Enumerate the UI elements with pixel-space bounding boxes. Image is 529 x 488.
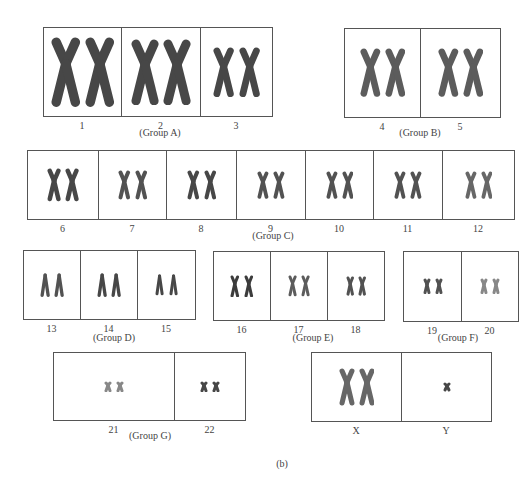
chromosome-number-label: 13 (23, 323, 80, 334)
chromosome-icon (97, 273, 107, 297)
chromosome-icon (155, 274, 164, 296)
group-boxes (53, 352, 246, 421)
chromosome-icon (204, 170, 217, 200)
chromosome-icon (410, 171, 422, 199)
chromosome-number-label: 12 (442, 223, 514, 234)
chromosome-pair-19 (404, 252, 462, 321)
chromosome-icon (169, 274, 178, 296)
chromosome-pair-8 (167, 151, 237, 219)
chromosome-pair-x (312, 353, 402, 421)
chromosome-icon (288, 275, 297, 297)
chromosome-pair-17 (271, 252, 328, 320)
chromosome-number-label: 3 (200, 120, 272, 131)
chromosome-number-label: 10 (305, 223, 373, 234)
chromosome-icon (230, 275, 240, 298)
chromosome-number-label: X (311, 425, 401, 436)
chromosome-icon (257, 171, 269, 199)
chromosome-icon (394, 171, 406, 199)
chromosome-pair-21 (54, 353, 175, 420)
chromosome-icon (339, 368, 355, 406)
chromosome-pair-16 (214, 252, 271, 320)
group-name-label: (Group B) (399, 127, 440, 138)
chromosome-number-label: 6 (27, 223, 98, 234)
chromosome-pair-18 (328, 252, 385, 320)
chromosome-group-a: 123 (43, 27, 273, 131)
chromosome-pair-3 (201, 28, 273, 116)
group-name-label: (Group A) (139, 127, 180, 138)
group-boxes (344, 28, 501, 118)
chromosome-group-f: 1920 (403, 251, 519, 336)
chromosome-icon (187, 170, 200, 200)
chromosome-number-label: 15 (137, 323, 195, 334)
chromosome-icon (481, 171, 493, 199)
group-name-label: (Group C) (252, 230, 293, 241)
chromosome-group-c: 6789101112 (27, 150, 515, 234)
chromosome-icon (463, 48, 484, 97)
group-boxes (311, 352, 492, 422)
chromosome-icon (358, 276, 366, 296)
chromosome-icon (435, 278, 443, 295)
chromosome-number-label: 1 (43, 120, 121, 131)
group-boxes (27, 150, 515, 220)
chromosome-group-e: 161718 (213, 251, 385, 335)
group-name-label: (Group D) (93, 332, 135, 343)
chromosome-number-label: 16 (213, 324, 270, 335)
chromosome-pair-13 (24, 251, 81, 319)
chromosome-icon (326, 171, 338, 199)
chromosome-icon (51, 37, 81, 107)
chromosome-number-label: 8 (166, 223, 236, 234)
chromosome-pair-4 (345, 29, 421, 117)
chromosome-group-g: 2122 (53, 352, 246, 435)
chromosome-icon (163, 39, 191, 106)
chromosome-icon (212, 381, 220, 393)
chromosome-pair-10 (306, 151, 374, 219)
chromosome-pair-7 (99, 151, 167, 219)
chromosome-icon (118, 170, 131, 200)
chromosome-number-label: 7 (98, 223, 166, 234)
chromosome-group-xy: XY (311, 352, 492, 436)
chromosome-number-label: 22 (174, 424, 245, 435)
chromosome-icon (301, 275, 310, 297)
chromosome-number-label: Y (401, 425, 491, 436)
chromosome-icon (135, 170, 148, 200)
chromosome-icon (273, 171, 285, 199)
chromosome-icon (40, 273, 50, 297)
chromosome-icon (65, 168, 79, 202)
chromosome-pair-14 (81, 251, 138, 319)
chromosome-icon (438, 48, 459, 97)
chromosome-icon (465, 171, 477, 199)
chromosome-icon (244, 275, 254, 298)
chromosome-icon (200, 381, 208, 393)
chromosome-pair-2 (122, 28, 201, 116)
group-name-label: (Group G) (129, 430, 171, 441)
group-labels: XY (311, 422, 492, 436)
group-boxes (213, 251, 385, 321)
chromosome-icon (239, 47, 260, 98)
chromosome-number-label: 18 (327, 324, 384, 335)
chromosome-icon (346, 276, 354, 296)
chromosome-icon (111, 273, 121, 297)
group-boxes (23, 250, 196, 320)
chromosome-number-label: 11 (373, 223, 442, 234)
chromosome-icon (492, 278, 500, 295)
chromosome-icon (360, 48, 381, 97)
chromosome-pair-6 (28, 151, 99, 219)
chromosome-icon (54, 273, 64, 297)
chromosome-pair-20 (462, 252, 519, 321)
chromosome-icon (104, 381, 112, 393)
chromosome-icon (131, 39, 159, 106)
chromosome-pair-22 (175, 353, 246, 420)
chromosome-icon (47, 168, 61, 202)
chromosome-pair-9 (237, 151, 306, 219)
chromosome-pair-5 (421, 29, 501, 117)
chromosome-icon (443, 382, 451, 392)
group-boxes (43, 27, 273, 117)
chromosome-icon (385, 48, 406, 97)
chromosome-pair-15 (138, 251, 196, 319)
figure-caption: (b) (276, 458, 288, 469)
chromosome-pair-1 (44, 28, 122, 116)
chromosome-group-d: 131415 (23, 250, 196, 334)
chromosome-icon (480, 278, 488, 295)
chromosome-icon (85, 37, 115, 107)
chromosome-pair-y (402, 353, 492, 421)
